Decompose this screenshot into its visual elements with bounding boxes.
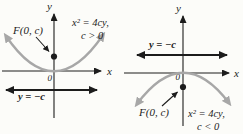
directrix-label: y = −c <box>147 39 176 50</box>
x-axis-label: x <box>106 65 112 77</box>
focus-label: F(0, c) <box>138 106 169 119</box>
directrix-label: y = −c <box>16 91 45 102</box>
focus-point <box>51 53 57 59</box>
equation-line1: x² = 4cy, <box>71 17 109 28</box>
origin-label: 0 <box>48 73 53 83</box>
equation-line2: c < 0 <box>197 121 220 132</box>
focus-pointer-arrow <box>162 92 178 106</box>
origin-label: 0 <box>176 72 181 82</box>
right-graph-panel: F(0, c) x² = 4cy, c < 0 y = −c 0 x y <box>121 0 243 134</box>
equation-line1: x² = 4cy, <box>187 108 225 119</box>
y-axis-label: y <box>175 2 181 14</box>
parabola-figure: F(0, c) x² = 4cy, c > 0 y = −c 0 x y <box>0 0 243 134</box>
x-axis-label: x <box>233 67 239 79</box>
equation-line2: c > 0 <box>81 30 104 41</box>
y-axis-label: y <box>46 0 52 12</box>
focus-label: F(0, c) <box>12 24 43 37</box>
left-graph-panel: F(0, c) x² = 4cy, c > 0 y = −c 0 x y <box>0 0 121 134</box>
focus-point <box>180 84 186 90</box>
focus-pointer-arrow <box>36 37 49 52</box>
